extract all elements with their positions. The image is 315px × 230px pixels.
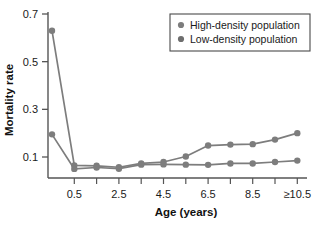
x-tick-label: 4.5 <box>156 188 171 200</box>
chart-figure: 0.10.30.50.7 0.52.54.56.58.5≥10.5 Mortal… <box>0 0 315 230</box>
legend-label-high-density: High-density population <box>190 19 300 31</box>
data-point-marker <box>93 164 99 170</box>
data-point-marker <box>272 136 278 142</box>
data-point-marker <box>205 142 211 148</box>
data-point-marker <box>294 157 300 163</box>
data-point-marker <box>227 160 233 166</box>
x-tick-label: 6.5 <box>200 188 215 200</box>
x-tick-label: 8.5 <box>245 188 260 200</box>
data-point-marker <box>116 165 122 171</box>
data-point-marker <box>205 162 211 168</box>
legend-label-low-density: Low-density population <box>190 33 298 45</box>
x-tick-label: 2.5 <box>111 188 126 200</box>
y-axis-title: Mortality rate <box>3 64 15 136</box>
data-point-marker <box>250 160 256 166</box>
data-point-marker <box>160 161 166 167</box>
y-tick-label: 0.3 <box>23 103 38 115</box>
data-point-marker <box>183 161 189 167</box>
y-tick-label: 0.1 <box>23 151 38 163</box>
data-point-marker <box>138 161 144 167</box>
x-tick-label: 0.5 <box>67 188 82 200</box>
x-tick-label: ≥10.5 <box>284 188 311 200</box>
data-point-marker <box>49 131 55 137</box>
data-point-marker <box>294 130 300 136</box>
data-point-marker <box>183 153 189 159</box>
mortality-rate-line-chart: 0.10.30.50.7 0.52.54.56.58.5≥10.5 Mortal… <box>0 0 315 230</box>
data-point-marker <box>49 27 55 33</box>
legend-marker-high-density-icon <box>178 22 184 28</box>
data-point-marker <box>71 166 77 172</box>
y-tick-label: 0.5 <box>23 56 38 68</box>
legend-marker-low-density-icon <box>178 36 184 42</box>
data-point-marker <box>250 141 256 147</box>
data-point-marker <box>272 159 278 165</box>
data-point-marker <box>227 141 233 147</box>
chart-legend: High-density population Low-density popu… <box>170 14 310 51</box>
y-tick-label: 0.7 <box>23 8 38 20</box>
x-axis-title: Age (years) <box>155 206 218 218</box>
